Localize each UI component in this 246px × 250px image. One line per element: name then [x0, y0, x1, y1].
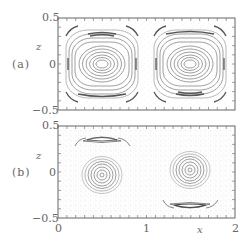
xtick-2: 2: [232, 223, 239, 234]
panel-a-ylabel: z: [36, 42, 41, 52]
panel-b-label: (b): [12, 167, 31, 178]
panel-a-ytick-top: 0.5: [42, 12, 60, 23]
xtick-0: 0: [55, 223, 62, 234]
panel-a-ytick-mid: 0: [49, 59, 56, 70]
panel-b: [58, 126, 235, 218]
x-axis-label: x: [197, 225, 203, 235]
panel-a: [58, 18, 235, 110]
panel-b-ytick-top: 0.5: [42, 120, 60, 131]
panel-b-ytick-mid: 0: [49, 167, 56, 178]
panel-a-background: [58, 18, 235, 110]
xtick-1: 1: [143, 223, 150, 234]
figure: 0.5 z (a) 0 −0.5 0.5 z (b) 0 −0.5 0 1 x …: [0, 0, 246, 250]
panel-a-ytick-bottom: −0.5: [32, 105, 59, 116]
panel-a-label: (a): [12, 59, 30, 70]
panel-b-ylabel: z: [36, 151, 41, 161]
